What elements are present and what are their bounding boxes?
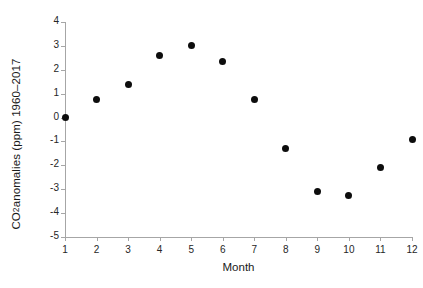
y-axis-line: [65, 22, 66, 238]
x-tick-label: 5: [188, 244, 194, 255]
x-tick-mark: [128, 237, 129, 241]
x-tick-label: 1: [62, 244, 68, 255]
data-point: [125, 81, 132, 88]
y-tick-label: -3: [50, 182, 59, 193]
data-point: [156, 52, 163, 59]
y-tick-mark: [61, 46, 65, 47]
x-tick-mark: [380, 237, 381, 241]
x-tick-mark: [65, 237, 66, 241]
x-tick-mark: [97, 237, 98, 241]
x-tick-mark: [412, 237, 413, 241]
plot-area: 43210-1-2-3-4-5 123456789101112: [65, 22, 412, 237]
data-point: [251, 96, 258, 103]
data-point: [188, 42, 195, 49]
data-point: [93, 96, 100, 103]
x-tick-label: 10: [343, 244, 354, 255]
x-tick-label: 11: [375, 244, 385, 255]
x-tick-mark: [191, 237, 192, 241]
y-tick-mark: [61, 213, 65, 214]
x-tick-mark: [254, 237, 255, 241]
x-tick-mark: [349, 237, 350, 241]
x-axis-title: Month: [65, 261, 412, 273]
x-tick-label: 7: [251, 244, 257, 255]
data-point: [62, 114, 69, 121]
data-point: [409, 136, 416, 143]
data-point: [219, 58, 226, 65]
x-tick-label: 12: [406, 244, 417, 255]
x-tick-mark: [223, 237, 224, 241]
y-tick-label: 1: [53, 87, 59, 98]
y-tick-mark: [61, 189, 65, 190]
x-tick-mark: [286, 237, 287, 241]
x-tick-label: 3: [125, 244, 131, 255]
y-tick-label: 2: [53, 63, 59, 74]
y-tick-label: 4: [53, 15, 59, 26]
chart-figure: CO2 anomalies (ppm) 1960–2017 43210-1-2-…: [0, 0, 423, 288]
data-point: [345, 192, 352, 199]
x-tick-label: 6: [220, 244, 226, 255]
y-axis-title-subscript: 2: [11, 207, 21, 212]
x-tick-label: 4: [157, 244, 163, 255]
x-tick-mark: [317, 237, 318, 241]
data-point: [282, 145, 289, 152]
y-axis-title-prefix: CO: [10, 212, 22, 229]
y-tick-mark: [61, 141, 65, 142]
data-point: [314, 188, 321, 195]
y-tick-label: -5: [50, 230, 59, 241]
y-tick-label: -4: [50, 206, 59, 217]
x-axis-line: [65, 237, 413, 238]
y-tick-mark: [61, 22, 65, 23]
x-tick-label: 2: [94, 244, 100, 255]
x-tick-label: 9: [315, 244, 321, 255]
y-tick-mark: [61, 165, 65, 166]
y-tick-label: 3: [53, 39, 59, 50]
x-tick-label: 8: [283, 244, 289, 255]
y-tick-label: -1: [50, 134, 59, 145]
y-tick-label: -2: [50, 158, 59, 169]
y-tick-label: 0: [53, 111, 59, 122]
x-tick-mark: [160, 237, 161, 241]
y-tick-mark: [61, 70, 65, 71]
y-tick-mark: [61, 94, 65, 95]
data-point: [377, 164, 384, 171]
y-axis-title-suffix: anomalies (ppm) 1960–2017: [10, 58, 22, 207]
y-axis-title: CO2 anomalies (ppm) 1960–2017: [0, 0, 32, 288]
